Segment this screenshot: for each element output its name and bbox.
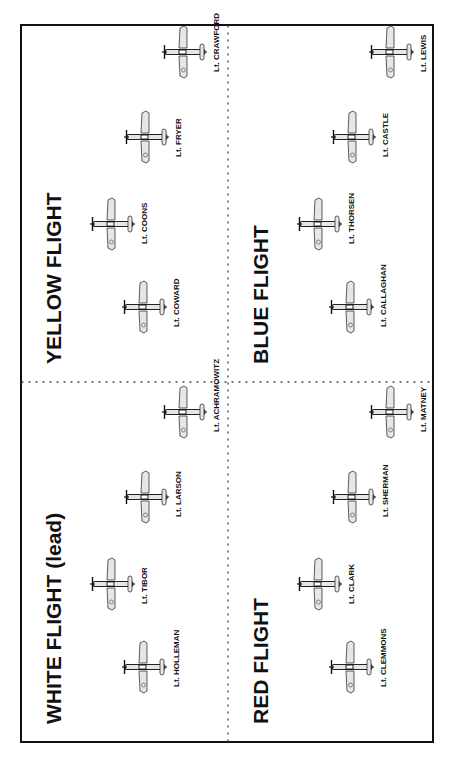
- pilot-name-label: Lt. HOLLEMAN: [172, 629, 181, 687]
- pilot-name-label: Lt. COWARD: [172, 278, 181, 327]
- rotated-page: WHITE FLIGHT (lead)Lt. HOLLEMANLt. TIBOR…: [21, 13, 433, 742]
- pilot-name-label: Lt. CRAWFORD: [212, 13, 221, 72]
- pilot-name-label: Lt. FRYER: [174, 118, 183, 157]
- pilot-name-label: Lt. CALLAGHAN: [379, 264, 388, 327]
- pilot-name-label: Lt. CLARK: [347, 564, 356, 604]
- pilot-name-label: Lt. CASTLE: [381, 112, 390, 157]
- flight-formation-diagram: WHITE FLIGHT (lead)Lt. HOLLEMANLt. TIBOR…: [0, 0, 450, 757]
- flight-title: BLUE FLIGHT: [249, 225, 272, 364]
- flight-title: WHITE FLIGHT (lead): [42, 513, 65, 724]
- diagram-canvas: WHITE FLIGHT (lead)Lt. HOLLEMANLt. TIBOR…: [0, 0, 450, 757]
- pilot-name-label: Lt. LARSON: [174, 471, 183, 517]
- pilot-name-label: Lt. ACHRAMOWITZ: [212, 359, 221, 432]
- flight-title: YELLOW FLIGHT: [42, 192, 65, 364]
- flight-title: RED FLIGHT: [249, 598, 272, 724]
- pilot-name-label: Lt. CLEMMONS: [379, 628, 388, 687]
- pilot-name-label: Lt. THORSEN: [347, 193, 356, 244]
- pilot-name-label: Lt. TIBOR: [140, 567, 149, 604]
- pilot-name-label: Lt. SHERMAN: [381, 464, 390, 517]
- pilot-name-label: Lt. LEWIS: [419, 34, 428, 72]
- pilot-name-label: Lt. COONS: [140, 202, 149, 244]
- pilot-name-label: Lt. MATNEY: [419, 386, 428, 432]
